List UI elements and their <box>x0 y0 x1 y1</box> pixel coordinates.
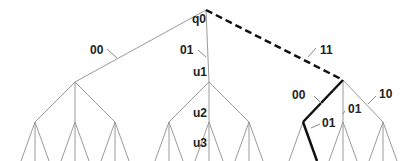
pointer-root-mid <box>198 50 206 57</box>
highlighted-path <box>206 10 343 161</box>
edge-label-root-mid: 01 <box>180 43 194 57</box>
edge-l2-leaf <box>61 122 75 161</box>
edge-l1-l2 <box>75 82 115 122</box>
pointer-right-left <box>314 96 322 104</box>
edge-l1-l2 <box>209 82 249 122</box>
edge-l2-leaf <box>21 122 35 161</box>
edge-l2-leaf <box>209 122 223 161</box>
tree-diagram: q0 u1 u2 u3 00 01 11 00 01 10 01 <box>0 0 417 161</box>
edge-label-right-right: 10 <box>379 87 393 101</box>
edge-l2-leaf <box>383 122 397 161</box>
edge-l2-leaf <box>115 122 129 161</box>
pointer-root-right <box>308 48 316 57</box>
edge-l2-leaf <box>169 122 183 161</box>
edge-l2-leaf <box>35 122 49 161</box>
edge-label-right-mid: 01 <box>348 102 362 116</box>
node-label-u2: u2 <box>193 106 207 120</box>
edge-label-right-left-mid: 01 <box>322 116 336 130</box>
edge-l1-l2 <box>35 82 75 122</box>
edge-bold-leaf <box>303 122 317 161</box>
edge-label-root-left: 00 <box>90 43 104 57</box>
node-label-u1: u1 <box>193 65 207 79</box>
pointer-right-left-mid <box>311 124 320 128</box>
edge-label-root-right: 11 <box>320 43 333 57</box>
edge-l2-leaf <box>369 122 383 161</box>
tree-edges <box>21 10 397 161</box>
edge-l2-leaf <box>343 122 357 161</box>
edge-l2-leaf <box>75 122 89 161</box>
pointer-root-left <box>107 49 117 58</box>
edge-l2-leaf <box>249 122 263 161</box>
edge-l2-leaf <box>155 122 169 161</box>
edge-l2-leaf <box>289 122 303 161</box>
node-label-u3: u3 <box>193 136 207 150</box>
pointer-right-right <box>368 96 376 104</box>
edge-label-right-left: 00 <box>292 88 306 102</box>
edge-l2-leaf <box>101 122 115 161</box>
node-label-q0: q0 <box>192 12 206 26</box>
edge-l2-leaf <box>235 122 249 161</box>
